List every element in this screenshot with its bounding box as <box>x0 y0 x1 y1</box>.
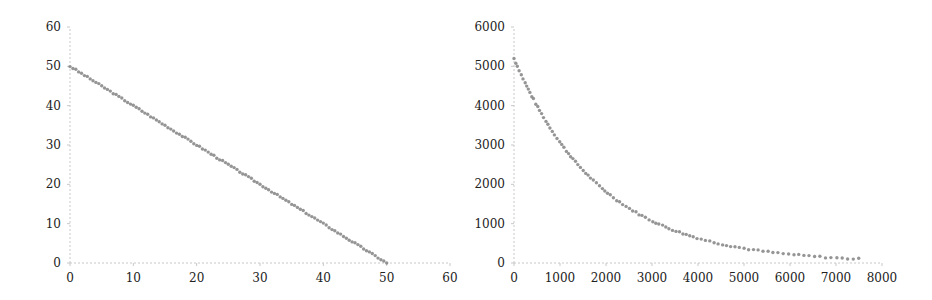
right-plot-area: 0100020003000400050006000010002000300040… <box>466 0 932 300</box>
y-tick-label: 4000 <box>474 99 505 113</box>
data-points <box>68 65 388 265</box>
x-tick-label: 50 <box>379 271 394 285</box>
data-point <box>514 62 517 65</box>
data-point <box>624 205 627 208</box>
data-point <box>109 89 112 92</box>
data-point <box>258 183 261 186</box>
y-tick-label: 30 <box>46 138 61 152</box>
data-point <box>657 222 660 225</box>
data-point <box>89 77 92 80</box>
data-point <box>846 257 849 260</box>
data-point <box>94 81 97 84</box>
data-point <box>579 166 582 169</box>
data-point <box>385 261 388 264</box>
data-point <box>267 188 270 191</box>
left-plot-area: 01020304050600102030405060 <box>0 0 466 300</box>
data-point <box>542 116 545 119</box>
data-point <box>247 175 250 178</box>
data-point <box>132 104 135 107</box>
data-point <box>261 185 264 188</box>
data-point <box>143 111 146 114</box>
data-point <box>106 88 109 91</box>
data-point <box>517 69 520 72</box>
data-point <box>654 222 657 225</box>
data-point <box>589 176 592 179</box>
x-tick-label: 5000 <box>729 271 760 285</box>
data-point <box>592 178 595 181</box>
data-point <box>609 193 612 196</box>
data-point <box>281 197 284 200</box>
data-point <box>551 130 554 133</box>
data-point <box>712 241 715 244</box>
data-point <box>371 252 374 255</box>
data-point <box>382 259 385 262</box>
data-point <box>761 250 764 253</box>
data-point <box>74 68 77 71</box>
data-point <box>647 218 650 221</box>
data-point <box>532 97 535 100</box>
data-point <box>813 255 816 258</box>
x-tick-label: 20 <box>189 271 204 285</box>
x-tick-label: 8000 <box>867 271 898 285</box>
data-point <box>241 172 244 175</box>
data-point <box>204 148 207 151</box>
x-tick-label: 10 <box>126 271 141 285</box>
data-point <box>721 243 724 246</box>
x-tick-label: 6000 <box>775 271 806 285</box>
data-point <box>166 126 169 129</box>
data-point <box>618 200 621 203</box>
data-point <box>339 232 342 235</box>
data-point <box>350 240 353 243</box>
data-point <box>576 163 579 166</box>
x-tick-label: 4000 <box>683 271 714 285</box>
data-point <box>376 256 379 259</box>
data-point <box>692 235 695 238</box>
data-point <box>667 227 670 230</box>
y-tick-label: 1000 <box>474 217 505 231</box>
data-point <box>186 137 189 140</box>
data-point <box>747 248 750 251</box>
y-tick-label: 60 <box>46 20 61 34</box>
axes: 0100020003000400050006000010002000300040… <box>474 20 897 285</box>
data-point <box>548 126 551 129</box>
data-point <box>114 93 117 96</box>
data-point <box>230 165 233 168</box>
data-point <box>829 256 832 259</box>
data-point <box>544 120 547 123</box>
data-point <box>137 107 140 110</box>
data-point <box>700 237 703 240</box>
data-point <box>595 181 598 184</box>
data-point <box>325 223 328 226</box>
data-point <box>674 230 677 233</box>
data-point <box>198 145 201 148</box>
data-point <box>270 190 273 193</box>
data-point <box>232 166 235 169</box>
data-point <box>540 112 543 115</box>
data-point <box>555 137 558 140</box>
data-point <box>598 184 601 187</box>
data-point <box>571 157 574 160</box>
data-point <box>140 110 143 113</box>
data-point <box>553 133 556 136</box>
data-point <box>716 242 719 245</box>
data-point <box>678 230 681 233</box>
data-point <box>538 109 541 112</box>
data-point <box>175 131 178 134</box>
data-point <box>651 220 654 223</box>
data-point <box>634 210 637 213</box>
data-point <box>348 239 351 242</box>
data-point <box>621 203 624 206</box>
x-tick-label: 60 <box>442 271 457 285</box>
y-tick-label: 10 <box>46 217 61 231</box>
data-point <box>356 243 359 246</box>
data-point <box>628 207 631 210</box>
data-point <box>688 234 691 237</box>
data-point <box>172 129 175 132</box>
data-point <box>68 65 71 68</box>
data-point <box>313 216 316 219</box>
data-point <box>671 229 674 232</box>
data-point <box>782 252 785 255</box>
data-point <box>733 245 736 248</box>
data-point <box>644 216 647 219</box>
data-point <box>704 239 707 242</box>
